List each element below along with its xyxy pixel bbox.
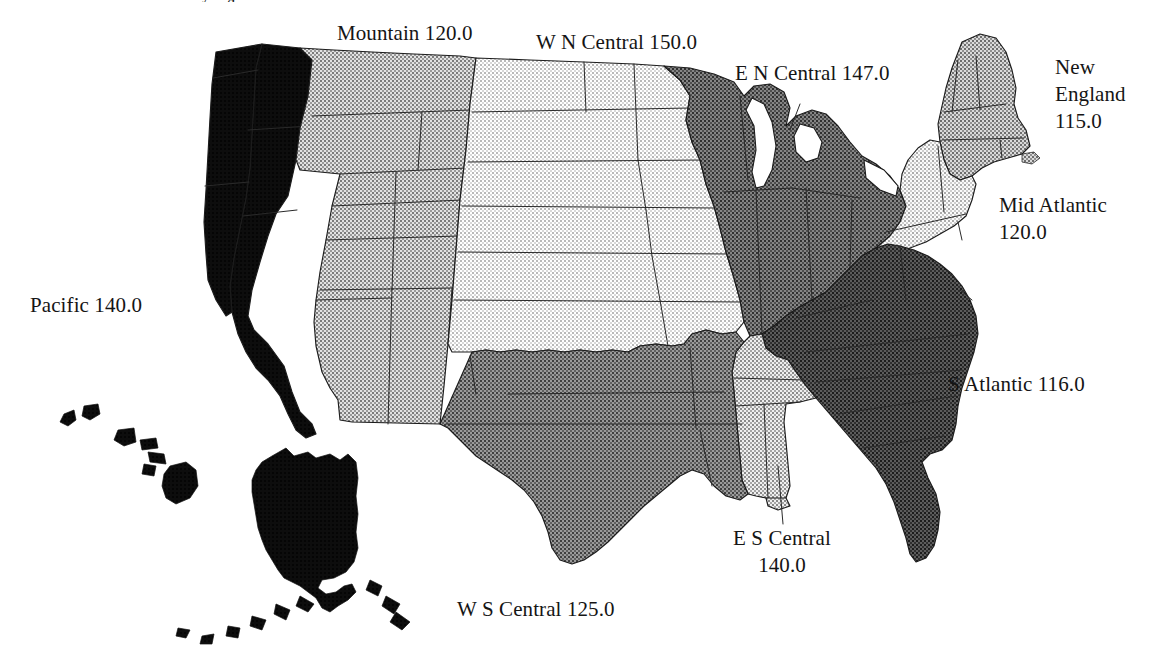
- label-s-atlantic: S Atlantic 116.0: [948, 371, 1085, 398]
- inset-alaska[interactable]: [176, 448, 410, 644]
- label-w-n-central: W N Central 150.0: [536, 29, 697, 56]
- region-mountain[interactable]: [296, 48, 476, 424]
- us-map-svg: [0, 0, 1154, 671]
- choropleth-map-figure: Census Division Cost Index by Region: [0, 0, 1154, 671]
- label-mountain: Mountain 120.0: [337, 20, 473, 47]
- label-e-s-central: E S Central 140.0: [700, 525, 864, 579]
- label-w-s-central: W S Central 125.0: [457, 596, 615, 623]
- inset-hawaii[interactable]: [60, 404, 198, 504]
- label-e-n-central: E N Central 147.0: [735, 60, 890, 87]
- label-mid-atlantic: Mid Atlantic 120.0: [999, 192, 1107, 246]
- label-pacific: Pacific 140.0: [30, 292, 142, 319]
- region-pacific[interactable]: [204, 44, 316, 438]
- region-new-england[interactable]: [938, 34, 1040, 180]
- label-new-england: New England 115.0: [1055, 54, 1126, 135]
